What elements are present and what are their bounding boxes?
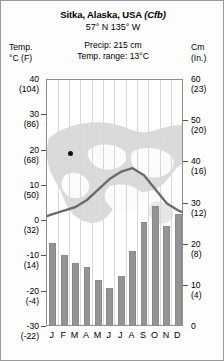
precip-inches-value: (20) [191, 125, 224, 135]
right-axis-tick-label: 30(12) [191, 198, 224, 218]
left-axis-caption: Temp. °C (F) [9, 42, 49, 63]
page-title: Sitka, Alaska, USA (Cfb) [1, 9, 224, 20]
precip-cm-value: 40 [191, 156, 201, 166]
temp-celsius-value: -10 [27, 250, 39, 260]
sitka-location-dot [68, 151, 73, 156]
right-axis-tick [183, 161, 188, 162]
right-axis-tick [183, 203, 188, 204]
precip-cm-value: 20 [191, 239, 201, 249]
temp-fahrenheit-value: (32) [1, 225, 39, 235]
temp-celsius-value: -20 [27, 286, 39, 296]
temp-fahrenheit-value: (50) [1, 190, 39, 200]
left-axis-tick [41, 255, 46, 256]
precip-cm-value: 10 [191, 280, 201, 290]
temp-celsius-value: 30 [29, 109, 39, 119]
climograph-plot-area [46, 79, 183, 326]
right-axis-caption: Cm (In.) [191, 42, 224, 63]
right-axis-tick-label: 0 [191, 321, 224, 331]
right-axis-tick [183, 120, 188, 121]
left-axis-tick [41, 291, 46, 292]
title-place: Sitka, Alaska, USA [60, 9, 141, 20]
title-koppen-code: (Cfb) [144, 9, 166, 20]
precip-inches-value: (16) [191, 166, 224, 176]
temp-fahrenheit-value: (104) [1, 84, 39, 94]
right-axis-tick [183, 244, 188, 245]
left-axis-tick [41, 150, 46, 151]
temp-fahrenheit-value: (86) [1, 119, 39, 129]
right-axis-tick-label: 50(20) [191, 115, 224, 135]
left-axis-tick [41, 114, 46, 115]
temp-range-label: Temp. range: 13°C [53, 51, 173, 62]
left-axis-tick [41, 220, 46, 221]
right-axis-tick-label: 20(8) [191, 239, 224, 259]
right-axis-tick [183, 285, 188, 286]
left-axis-tick-label: -30(-22) [1, 321, 39, 341]
left-axis-tick-label: 40(104) [1, 74, 39, 94]
precip-total-label: Precip: 215 cm [53, 40, 173, 51]
temp-celsius-value: 20 [29, 145, 39, 155]
right-axis-tick-label: 10(4) [191, 280, 224, 300]
precip-cm-value: 50 [191, 115, 201, 125]
summary-stats: Precip: 215 cm Temp. range: 13°C [53, 40, 173, 61]
month-label: D [170, 330, 184, 340]
left-axis-caption-line1: Temp. [9, 42, 49, 53]
climograph-card: Sitka, Alaska, USA (Cfb) 57° N 135° W Pr… [0, 0, 224, 361]
coordinates-label: 57° N 135° W [1, 22, 224, 32]
left-axis-tick-label: 30(86) [1, 109, 39, 129]
temp-celsius-value: -30 [27, 321, 39, 331]
precip-inches-value: (8) [191, 249, 224, 259]
precip-cm-value: 30 [191, 198, 201, 208]
right-axis-caption-line1: Cm [191, 42, 224, 53]
right-axis-caption-line2: (In.) [191, 53, 224, 64]
left-axis-tick [41, 326, 46, 327]
temp-fahrenheit-value: (68) [1, 155, 39, 165]
left-axis-tick [41, 185, 46, 186]
precip-inches-value: (4) [191, 290, 224, 300]
precip-inches-value: (12) [191, 208, 224, 218]
temp-fahrenheit-value: (14) [1, 260, 39, 270]
right-axis-tick-label: 40(16) [191, 156, 224, 176]
left-axis-tick-label: 0(32) [1, 215, 39, 235]
left-axis-tick-label: -10(14) [1, 250, 39, 270]
temp-celsius-value: 10 [29, 180, 39, 190]
left-axis-caption-line2: °C (F) [9, 53, 49, 64]
temp-fahrenheit-value: (-4) [1, 296, 39, 306]
left-axis-tick-label: 10(50) [1, 180, 39, 200]
precip-cm-value: 0 [191, 321, 196, 331]
precip-cm-value: 60 [191, 74, 201, 84]
temp-celsius-value: 0 [34, 215, 39, 225]
right-axis-tick-label: 60(23) [191, 74, 224, 94]
left-axis-tick-label: 20(68) [1, 145, 39, 165]
temperature-curve [47, 80, 183, 326]
temp-fahrenheit-value: (-22) [1, 331, 39, 341]
left-axis-tick-label: -20(-4) [1, 286, 39, 306]
temp-celsius-value: 40 [29, 74, 39, 84]
precip-inches-value: (23) [191, 84, 224, 94]
